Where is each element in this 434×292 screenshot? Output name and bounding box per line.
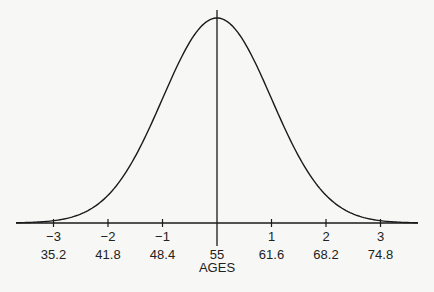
z-tick-label: 3 bbox=[377, 229, 384, 244]
z-tick-label: −1 bbox=[155, 229, 170, 244]
age-tick-label: 61.6 bbox=[259, 247, 284, 262]
age-tick-label: 68.2 bbox=[313, 247, 338, 262]
age-tick-label: 41.8 bbox=[95, 247, 120, 262]
x-axis-label: AGES bbox=[199, 260, 235, 275]
z-tick-label: −2 bbox=[101, 229, 116, 244]
normal-distribution-chart: −3−2−1123 35.241.848.45561.668.274.8 AGE… bbox=[0, 0, 434, 292]
age-tick-label: 74.8 bbox=[368, 247, 393, 262]
z-score-labels: −3−2−1123 bbox=[46, 229, 384, 244]
z-tick-label: 1 bbox=[268, 229, 275, 244]
age-tick-label: 35.2 bbox=[41, 247, 66, 262]
z-tick-label: −3 bbox=[46, 229, 61, 244]
z-tick-label: 2 bbox=[322, 229, 329, 244]
age-tick-label: 48.4 bbox=[150, 247, 175, 262]
